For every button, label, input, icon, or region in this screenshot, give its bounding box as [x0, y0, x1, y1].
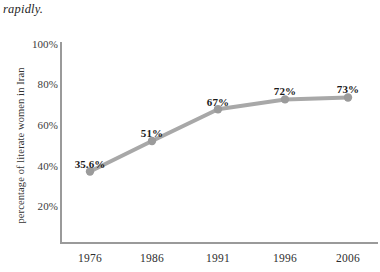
point-label-1996: 72%	[255, 85, 315, 97]
point-label-1991: 67%	[188, 96, 248, 108]
figure-container: rapidly. percentage of literate women in…	[0, 0, 380, 272]
point-label-2006: 73%	[318, 83, 378, 95]
line-chart: percentage of literate women in Iran 100…	[0, 0, 380, 272]
series-plot	[0, 0, 380, 272]
point-label-1976: 35.6%	[60, 158, 120, 170]
point-label-1986: 51%	[122, 127, 182, 139]
